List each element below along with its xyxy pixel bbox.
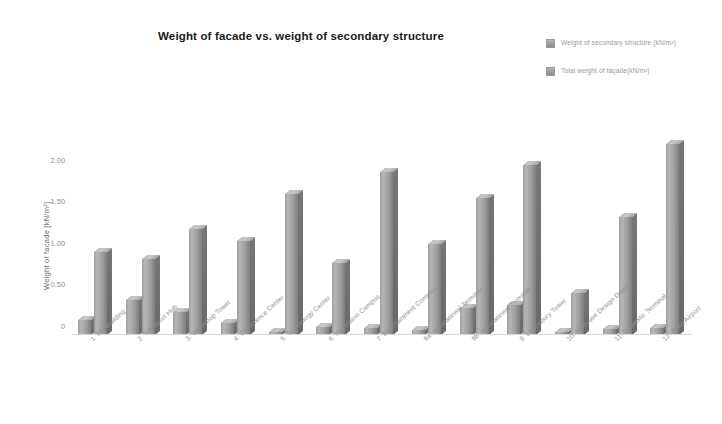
bar-group <box>78 130 126 335</box>
bar-front-face <box>476 198 489 335</box>
chart-legend: Weight of secondary structure (kN/m²)Tot… <box>546 38 718 94</box>
bar-group <box>126 130 174 335</box>
bar-group <box>173 130 221 335</box>
legend-swatch-icon <box>546 39 555 48</box>
bar-front-face <box>78 320 91 335</box>
bar-secondary-structure[interactable] <box>173 312 186 335</box>
legend-item-label: Weight of secondary structure (kN/m²) <box>561 38 676 47</box>
y-axis-tick-label: 1.50 <box>51 197 65 206</box>
bar-front-face <box>460 308 473 335</box>
y-axis-tick-label: 0.50 <box>51 280 65 289</box>
legend-item-label: Total weight of façade(kN/m²) <box>561 66 650 75</box>
bar-secondary-structure[interactable] <box>126 300 139 335</box>
chart-container: Weight of facade vs. weight of secondary… <box>0 0 722 424</box>
bar-front-face <box>189 229 202 335</box>
legend-item[interactable]: Weight of secondary structure (kN/m²) <box>546 38 718 48</box>
bar-side-face <box>393 168 398 335</box>
bar-front-face <box>523 165 536 335</box>
bar-side-face <box>679 140 684 335</box>
bar-front-face <box>666 144 679 335</box>
bar-secondary-structure[interactable] <box>460 308 473 335</box>
bar-total-facade[interactable] <box>619 217 632 335</box>
legend-item[interactable]: Total weight of façade(kN/m²) <box>546 66 718 76</box>
bar-total-facade[interactable] <box>380 172 393 335</box>
bar-total-facade[interactable] <box>189 229 202 335</box>
y-axis-tick-label: 1.00 <box>51 238 65 247</box>
bar-total-facade[interactable] <box>285 194 298 335</box>
bar-front-face <box>173 312 186 335</box>
bar-front-face <box>126 300 139 335</box>
bar-total-facade[interactable] <box>666 144 679 335</box>
bar-total-facade[interactable] <box>523 165 536 335</box>
x-axis-labels: 1. HQ Building2. Transport Hub3. Worksho… <box>72 337 692 417</box>
bar-side-face <box>298 190 303 335</box>
bar-secondary-structure[interactable] <box>78 320 91 335</box>
y-axis-tick-label: 2.00 <box>51 155 65 164</box>
bar-total-facade[interactable] <box>476 198 489 335</box>
bar-front-face <box>619 217 632 335</box>
bar-side-face <box>536 161 541 335</box>
bar-side-face <box>489 194 494 335</box>
plot-area: Weight of facade [kN/m²] 00.501.001.502.… <box>72 130 692 335</box>
bar-front-face <box>380 172 393 335</box>
y-axis-tick-label: 0 <box>61 322 65 331</box>
legend-swatch-icon <box>546 67 555 76</box>
bar-front-face <box>285 194 298 335</box>
